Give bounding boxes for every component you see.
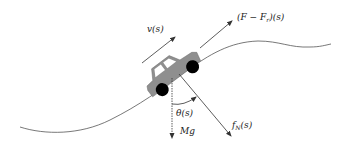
road-curve: [20, 41, 331, 132]
normal-force-label-tail: (s): [241, 120, 253, 130]
car: [139, 41, 206, 102]
traction-label: (F − Fr)(s): [237, 12, 285, 23]
traction-arrow: [200, 21, 232, 48]
traction-label-main: (F − F: [237, 12, 267, 22]
velocity-label: v(s): [147, 24, 164, 34]
angle-label: θ(s): [176, 108, 194, 118]
gravity-label: Mg: [179, 126, 195, 136]
diagram-canvas: v(s) (F − Fr)(s) Mg fN(s) θ(s): [0, 0, 346, 147]
normal-force-label: fN(s): [231, 120, 253, 131]
angle-arc: [172, 97, 196, 104]
traction-label-tail: )(s): [268, 12, 285, 22]
